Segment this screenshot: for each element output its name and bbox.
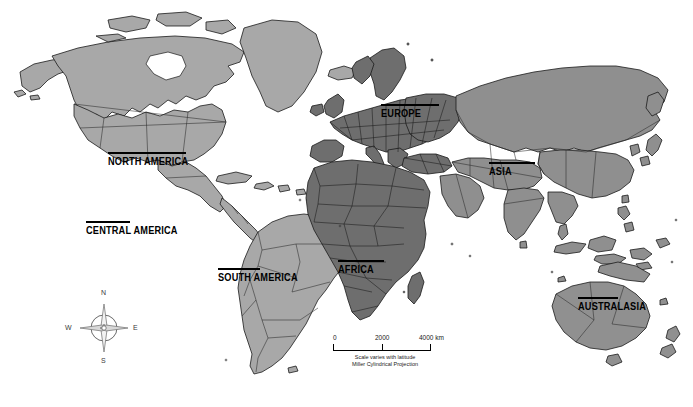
scale-tick-4000: 4000 km — [419, 334, 444, 341]
region-north-america — [14, 12, 356, 244]
label-rule — [578, 297, 618, 299]
compass-east-label: E — [133, 324, 138, 331]
label-asia-text: ASIA — [489, 166, 531, 177]
compass-north-label: N — [101, 289, 106, 296]
label-rule — [218, 268, 260, 270]
scale-bar-line — [333, 344, 431, 351]
label-rule — [86, 221, 130, 223]
label-rule — [338, 260, 384, 262]
scale-bar-caption: Scale varies with latitude Miller Cylind… — [333, 354, 437, 367]
label-asia: ASIA — [489, 162, 535, 177]
label-australasia: AUSTRALASIA — [578, 297, 652, 312]
compass-west-label: W — [65, 324, 72, 331]
label-north-america-text: NORTH AMERICA — [108, 156, 188, 167]
label-south-america: SOUTH AMERICA — [218, 268, 305, 283]
label-rule — [108, 152, 186, 154]
scale-tick-0: 0 — [333, 334, 337, 341]
label-europe: EUROPE — [381, 104, 439, 119]
label-australasia-text: AUSTRALASIA — [578, 301, 646, 312]
scale-tick-2000: 2000 — [375, 334, 389, 341]
scale-caption-line2: Miller Cylindrical Projection — [333, 361, 437, 368]
label-central-america: CENTRAL AMERICA — [86, 221, 186, 236]
label-rule — [381, 104, 439, 106]
label-central-america-text: CENTRAL AMERICA — [86, 225, 178, 236]
compass-south-label: S — [101, 357, 106, 364]
label-rule — [489, 162, 535, 164]
label-north-america: NORTH AMERICA — [108, 152, 195, 167]
scale-bar-midtick — [382, 344, 383, 350]
label-south-america-text: SOUTH AMERICA — [218, 272, 298, 283]
scale-bar-ticks: 0 2000 4000 km — [333, 334, 445, 344]
region-africa — [306, 160, 430, 320]
region-australasia — [552, 262, 680, 366]
compass-rose: N E S W — [62, 288, 146, 368]
world-map-figure: .land{stroke:#1a1a1a;stroke-width:0.8;st… — [0, 0, 693, 407]
label-africa-text: AFRICA — [338, 264, 380, 275]
scale-bar: 0 2000 4000 km Scale varies with latitud… — [333, 334, 445, 367]
label-africa: AFRICA — [338, 260, 384, 275]
region-asia — [440, 66, 670, 274]
label-europe-text: EUROPE — [381, 108, 434, 119]
